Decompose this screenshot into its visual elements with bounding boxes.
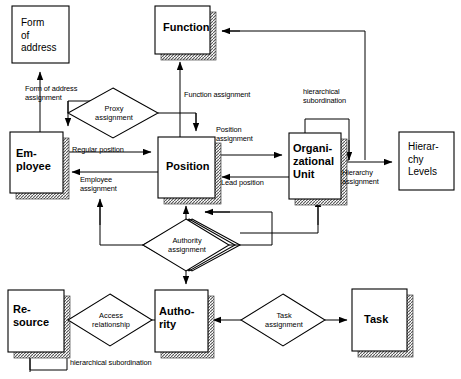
edge-label-position-assignment: Position assignment (216, 125, 253, 143)
entity-label-position: Position (166, 160, 209, 173)
entity-label-form-of-address: Form of address (21, 17, 57, 55)
edge-label-hierarchy-assignment: Hierarchy assignment (342, 168, 379, 186)
relationship-label-task-assignment: Task assignment (255, 311, 313, 329)
edge-label-lead-position: Lead position (221, 178, 264, 187)
edge-label-form-of-address-assignment: Form of address assignment (25, 84, 77, 102)
edge-label-employee-assignment: Employee assignment (80, 175, 117, 193)
entity-label-employee: Em- ployee (16, 147, 51, 173)
relationship-label-access-relationship: Access relationship (82, 311, 140, 329)
entity-label-task: Task (364, 313, 388, 326)
entity-label-function: Function (163, 21, 209, 34)
edge-label-hierarchical-subordination-top: hierarchical subordination (303, 87, 346, 105)
relationship-label-authority-assignment: Authority assignment (158, 236, 216, 254)
diagram-vector-layer (0, 0, 461, 379)
entity-label-resource: Re- source (13, 303, 49, 329)
entity-label-organizational-unit: Organi- zational Unit (293, 142, 334, 181)
entity-label-hierarchy-levels: Hierar- chy Levels (408, 141, 439, 179)
relationship-label-proxy-assignment: Proxy assignment (86, 104, 142, 122)
entity-label-authority: Autho- rity (159, 305, 194, 331)
edge-label-regular-position: Regular position (72, 145, 124, 154)
edge-label-function-assignment: Function assignment (184, 90, 250, 99)
er-diagram-canvas: Form of address Function Em- ployee Posi… (0, 0, 461, 379)
edge-label-hierarchical-subordination-bottom: hierarchical subordination (70, 358, 152, 367)
